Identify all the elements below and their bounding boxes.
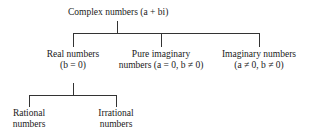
connector [73,83,74,95]
connector [117,21,118,33]
node-real-numbers: Real numbers (b = 0) [38,49,108,71]
node-label: Imaginary numbers [219,49,299,60]
node-rational: Rational numbers [4,108,54,130]
node-imaginary-numbers: Imaginary numbers (a ≠ 0, b ≠ 0) [219,49,299,71]
connector [73,33,260,34]
node-label: Real numbers [38,49,108,60]
node-label: Irrational [91,108,141,119]
connector [161,33,162,47]
connector [73,33,74,47]
node-label: Rational [4,108,54,119]
node-label: numbers [4,119,54,130]
node-pure-imaginary: Pure imaginary numbers (a = 0, b ≠ 0) [111,49,211,71]
node-label: numbers [91,119,141,130]
node-condition: (a ≠ 0, b ≠ 0) [219,60,299,71]
node-label: Complex numbers (a + bi) [68,7,168,17]
connector [29,95,117,96]
connector [116,95,117,107]
node-complex-numbers: Complex numbers (a + bi) [68,7,168,18]
connector [29,95,30,107]
connector [259,33,260,47]
node-label: Pure imaginary [111,49,211,60]
node-condition: numbers (a = 0, b ≠ 0) [111,60,211,71]
node-condition: (b = 0) [38,60,108,71]
node-irrational: Irrational numbers [91,108,141,130]
